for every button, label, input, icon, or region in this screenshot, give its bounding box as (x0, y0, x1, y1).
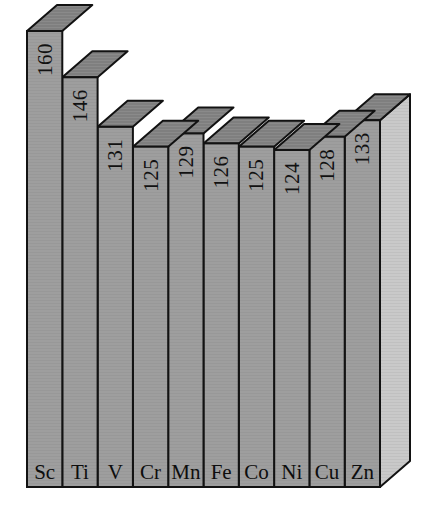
bar-front-face (274, 150, 309, 487)
bar-value-label: 131 (103, 139, 127, 172)
category-label-cu: Cu (315, 460, 340, 484)
bar-chart: 160146131125129126125124128133 ScTiVCrMn… (0, 0, 434, 510)
category-label-ni: Ni (281, 460, 302, 484)
bar-front-face (168, 133, 203, 487)
bar-top-face (98, 101, 163, 127)
category-label-sc: Sc (34, 460, 55, 484)
bar-value-label: 125 (139, 159, 163, 192)
bar-front-face (27, 31, 62, 487)
bar-front-face (98, 127, 133, 487)
bar-top-face (62, 51, 127, 77)
chart-canvas: 160146131125129126125124128133 ScTiVCrMn… (0, 0, 434, 510)
bar-value-label: 129 (174, 145, 198, 178)
bars-layer (27, 5, 410, 487)
category-label-ti: Ti (71, 460, 89, 484)
bar-front-face (345, 120, 380, 487)
bar-front-face (133, 147, 168, 487)
bar-front-face (62, 77, 97, 487)
category-label-fe: Fe (211, 460, 232, 484)
bar-value-label: 128 (315, 149, 339, 182)
bar-front-face (204, 143, 239, 487)
category-label-mn: Mn (171, 460, 201, 484)
bar-top-face (27, 5, 92, 31)
bar-side-face (380, 94, 410, 487)
category-label-zn: Zn (351, 460, 375, 484)
category-label-cr: Cr (140, 460, 161, 484)
category-label-co: Co (244, 460, 269, 484)
bar-value-label: 160 (33, 43, 57, 76)
bar-value-label: 133 (350, 132, 374, 165)
bar-front-face (239, 147, 274, 487)
bar-value-label: 124 (280, 162, 304, 195)
bar-value-label: 126 (209, 155, 233, 188)
category-label-v: V (108, 460, 123, 484)
bar-front-face (309, 137, 344, 487)
bar-value-label: 146 (68, 89, 92, 122)
bar-value-label: 125 (244, 159, 268, 192)
